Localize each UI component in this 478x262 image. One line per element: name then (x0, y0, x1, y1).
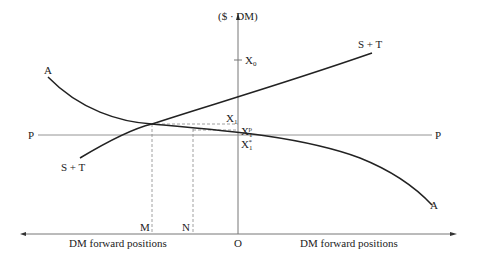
x0-label: X0 (245, 55, 256, 70)
st-label-left: S + T (61, 162, 85, 173)
x1-label: X1 (226, 113, 237, 128)
p-label-right: P (435, 130, 441, 141)
diagram-canvas (0, 0, 478, 262)
p-label-left: P (28, 130, 34, 141)
x-axis-right-label: DM forward positions (300, 238, 398, 249)
a-label-right: A (430, 200, 438, 211)
origin-label: O (234, 238, 242, 249)
st-curve (80, 53, 372, 158)
x1star-label: X1* (241, 137, 252, 154)
y-axis-label: ($ · DM) (218, 11, 258, 22)
x-axis-left-label: DM forward positions (69, 238, 167, 249)
st-label-right: S + T (358, 39, 382, 50)
x-axis-left-arrow-icon (20, 232, 26, 236)
m-label: M (140, 222, 150, 233)
x-axis-right-arrow-icon (450, 232, 457, 236)
n-label: N (182, 222, 190, 233)
a-label-left: A (44, 65, 52, 76)
